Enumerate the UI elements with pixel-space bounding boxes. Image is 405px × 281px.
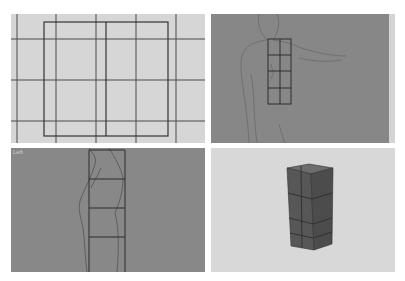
body-sketch	[211, 14, 389, 143]
viewport-border-strip	[389, 14, 395, 143]
box-grid	[268, 39, 291, 104]
box-stack-3d	[211, 148, 395, 272]
viewport-side-reference[interactable]: Left	[11, 148, 205, 272]
side-sketch	[11, 148, 205, 272]
grid-lines	[11, 14, 205, 143]
viewport-front-reference[interactable]	[211, 14, 389, 143]
viewport-front-grid[interactable]	[11, 14, 205, 143]
viewport-perspective[interactable]	[211, 148, 395, 272]
